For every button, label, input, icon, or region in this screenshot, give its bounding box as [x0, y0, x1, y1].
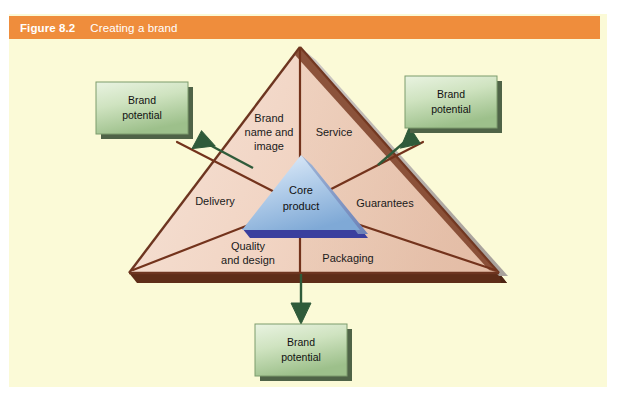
- label-brand-name-and-image-line2: name and: [245, 126, 294, 138]
- box-body-right: [405, 76, 497, 128]
- label-brand-name-and-image-line3: image: [254, 140, 284, 152]
- label-packaging: Packaging: [322, 252, 373, 264]
- box-body-left: [96, 82, 188, 134]
- box-left-label-line1: Brand: [128, 94, 156, 106]
- brand-pyramid-diagram: Core product Brand name and image Servic…: [0, 0, 617, 409]
- figure-root: Figure 8.2 Creating a brand: [0, 0, 617, 409]
- label-quality-and-design-line2: and design: [221, 254, 275, 266]
- label-service: Service: [316, 126, 353, 138]
- brand-potential-box-left[interactable]: Brand potential: [96, 82, 193, 139]
- box-right-label-line1: Brand: [437, 88, 465, 100]
- brand-potential-box-right[interactable]: Brand potential: [405, 76, 502, 133]
- box-right-label-line2: potential: [431, 103, 471, 115]
- brand-potential-box-bottom[interactable]: Brand potential: [255, 324, 352, 381]
- core-product-label-line2: product: [283, 200, 320, 212]
- outer-pyramid-base-shadow: [129, 273, 507, 283]
- label-brand-name-and-image-line1: Brand: [254, 112, 283, 124]
- core-product-label-line1: Core: [289, 184, 313, 196]
- box-bottom-label-line1: Brand: [287, 336, 315, 348]
- label-delivery: Delivery: [195, 195, 235, 207]
- box-left-label-line2: potential: [122, 109, 162, 121]
- label-guarantees: Guarantees: [356, 197, 414, 209]
- box-body-bottom: [255, 324, 347, 376]
- label-quality-and-design-line1: Quality: [231, 240, 266, 252]
- box-bottom-label-line2: potential: [281, 351, 321, 363]
